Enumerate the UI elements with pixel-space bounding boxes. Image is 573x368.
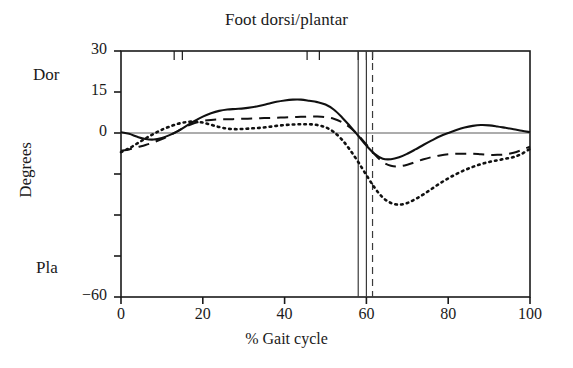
series-line-solid (121, 100, 530, 160)
x-tick-label: 0 (96, 305, 146, 323)
y-tick-label: 30 (59, 40, 107, 58)
plot-frame (121, 51, 530, 297)
x-tick-label: 80 (423, 305, 473, 323)
y-tick-label: 0 (59, 122, 107, 140)
chart-figure: Foot dorsi/plantar Dor Pla Degrees % Gai… (0, 0, 573, 368)
x-tick-label: 100 (505, 305, 555, 323)
series-line-dashed (121, 117, 530, 167)
x-tick-label: 60 (341, 305, 391, 323)
x-tick-label: 20 (178, 305, 228, 323)
x-tick-label: 40 (260, 305, 310, 323)
y-tick-label: 15 (59, 81, 107, 99)
y-tick-label: −60 (59, 286, 107, 304)
series-line-dotted (121, 122, 530, 205)
